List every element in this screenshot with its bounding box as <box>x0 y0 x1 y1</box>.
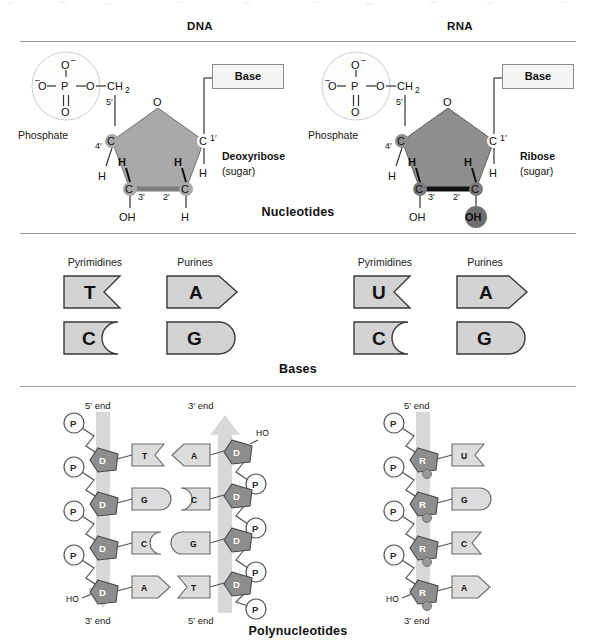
rna-strand-hydroxyl: HO <box>386 594 399 604</box>
carbon-1: C <box>489 135 497 147</box>
left-phosphates: P P P P <box>64 413 84 565</box>
svg-text:R: R <box>419 455 426 466</box>
svg-text:D: D <box>233 535 240 546</box>
group-header-pyrimidines-rna: Pyrimidines <box>340 256 430 268</box>
svg-text:C: C <box>141 539 147 549</box>
svg-text:G: G <box>190 539 197 549</box>
hydrogen-c3: H <box>408 156 416 168</box>
prime-5: 5′ <box>396 97 403 107</box>
base-box-rna: Base <box>502 64 574 89</box>
svg-text:G: G <box>461 495 468 505</box>
column-title-rna: RNA <box>410 20 510 32</box>
carbon-4: C <box>397 135 405 147</box>
hydrogen-c3: H <box>118 156 126 168</box>
svg-text:A: A <box>191 451 197 461</box>
divider-top <box>20 41 576 42</box>
section-label-bases: Bases <box>0 362 596 376</box>
base-shape-dna-pyrimidine-1: T <box>62 272 142 312</box>
svg-text:P: P <box>252 479 259 490</box>
prime-5: 5′ <box>106 97 113 107</box>
sugar-name-dna: Deoxyribose <box>222 150 285 162</box>
sugar-sub-dna: (sugar) <box>222 165 255 177</box>
right-strand-hydroxyl: HO <box>256 428 269 438</box>
svg-text:P: P <box>252 523 259 534</box>
base-shape-rna-pyrimidine-2: C <box>352 318 432 358</box>
column-title-dna: DNA <box>150 20 250 32</box>
base-box-label-rna: Base <box>503 65 573 88</box>
svg-text:P: P <box>70 550 77 561</box>
right-bases: A C G T <box>171 444 210 598</box>
phosphate-bottom-o: O <box>351 106 360 118</box>
base-letter: C <box>372 328 386 349</box>
prime-2: 2′ <box>163 192 170 202</box>
section-label-polynucleotides: Polynucleotides <box>0 624 596 638</box>
carbon-1: C <box>199 135 207 147</box>
hydrogen-c2: H <box>464 156 472 168</box>
ring-oxygen: O <box>443 96 452 108</box>
phosphate-top-o: O <box>61 59 70 71</box>
ch2-group: CH <box>397 80 413 92</box>
rna-bases: U G C A <box>452 444 491 598</box>
base-shape-dna-pyrimidine-2: C <box>62 318 142 358</box>
phosphate-right-o: O <box>376 80 385 92</box>
svg-text:P: P <box>390 418 397 429</box>
svg-text:P: P <box>70 506 77 517</box>
base-shape-rna-pyrimidine-1: U <box>352 272 432 312</box>
svg-text:P: P <box>390 550 397 561</box>
prime-4: 4′ <box>95 141 102 151</box>
phosphate-left-o: O <box>328 80 337 92</box>
hydrogen-c1: H <box>199 167 207 179</box>
svg-text:P: P <box>252 604 259 615</box>
svg-text:U: U <box>461 451 467 461</box>
prime-1: 1′ <box>500 133 507 143</box>
ring-oxygen: O <box>153 96 162 108</box>
ch2-subscript: 2 <box>415 85 420 95</box>
svg-text:C: C <box>191 495 197 505</box>
svg-text:T: T <box>191 583 197 593</box>
svg-text:D: D <box>233 579 240 590</box>
hydrogen-c4: H <box>98 170 106 182</box>
svg-text:P: P <box>70 462 77 473</box>
group-header-purines-dna: Purines <box>155 256 235 268</box>
svg-text:A: A <box>461 583 467 593</box>
ch2-subscript: 2 <box>125 85 130 95</box>
carbon-3: C <box>415 183 423 195</box>
hydrogen-c1: H <box>489 167 497 179</box>
base-shape-rna-purine-1: A <box>455 272 545 312</box>
base-shape-rna-purine-2: G <box>455 318 545 358</box>
svg-text:P: P <box>390 462 397 473</box>
svg-text:P: P <box>390 506 397 517</box>
deoxyribose-ring <box>112 108 204 189</box>
phosphate-top-o: O <box>351 59 360 71</box>
sugar-name-rna: Ribose <box>520 150 555 162</box>
base-box-dna: Base <box>212 64 284 89</box>
phosphate-left-o: O <box>38 80 47 92</box>
rna-polynucleotide-diagram: P P P P R R R R HO <box>380 410 570 615</box>
svg-text:R: R <box>419 587 426 598</box>
sugar-sub-rna: (sugar) <box>520 165 553 177</box>
rna-phosphates: P P P P <box>384 413 404 565</box>
base-box-label-dna: Base <box>213 65 283 88</box>
svg-text:D: D <box>233 447 240 458</box>
phosphate-p: P <box>61 80 68 92</box>
carbon-3: C <box>125 183 133 195</box>
svg-text:C: C <box>461 539 467 549</box>
prime-2: 2′ <box>453 192 460 202</box>
left-bases: T G C A <box>132 444 171 598</box>
carbon-4: C <box>107 135 115 147</box>
ribose-hydroxyl-dot <box>423 514 432 523</box>
svg-text:D: D <box>99 587 106 598</box>
phosphate-p: P <box>351 80 358 92</box>
base-letter: A <box>189 282 203 303</box>
svg-text:D: D <box>99 455 106 466</box>
svg-text:R: R <box>419 543 426 554</box>
hydrogen-c2: H <box>174 156 182 168</box>
ribose-ring <box>402 108 494 189</box>
phosphate-label-dna: Phosphate <box>18 129 68 141</box>
dna-polynucleotide-diagram: P P P P D D D D HO <box>60 410 300 615</box>
base-letter: G <box>187 328 202 349</box>
hydrogen-c4: H <box>388 170 396 182</box>
left-strand-hydroxyl: HO <box>66 594 79 604</box>
phosphate-top-charge: – <box>71 55 76 65</box>
base-shape-dna-purine-1: A <box>165 272 255 312</box>
